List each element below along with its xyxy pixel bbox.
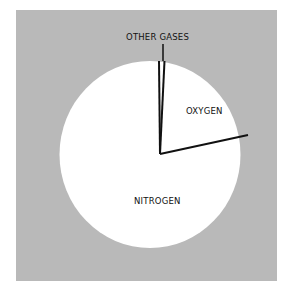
nitrogen-label: NITROGEN xyxy=(134,197,181,206)
oxygen-label: OXYGEN xyxy=(186,107,223,116)
pie-disc xyxy=(60,61,241,248)
other-gases-label: OTHER GASES xyxy=(126,33,189,42)
pie-chart xyxy=(0,0,286,293)
